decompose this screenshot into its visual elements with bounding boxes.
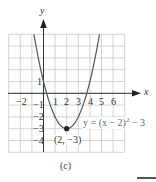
y-tick-neg2: −2 bbox=[33, 112, 44, 122]
parabola-figure bbox=[0, 0, 156, 182]
y-tick-neg4: −4 bbox=[33, 136, 44, 146]
equation-prefix: y = (x − 2) bbox=[83, 117, 126, 128]
x-tick-6: 6 bbox=[111, 97, 116, 107]
x-tick-5: 5 bbox=[99, 97, 104, 107]
y-axis-arrow-icon bbox=[40, 19, 47, 28]
equation-label: y = (x − 2)2 − 3 bbox=[82, 117, 146, 129]
x-tick-neg2: −2 bbox=[16, 97, 27, 107]
bottom-right-rule bbox=[137, 177, 156, 179]
y-axis-label: y bbox=[40, 6, 44, 16]
vertex-label: (2, −3) bbox=[54, 135, 81, 145]
y-tick-neg1: −1 bbox=[33, 100, 44, 110]
y-tick-1: 1 bbox=[37, 77, 42, 87]
x-axis-label: x bbox=[144, 87, 148, 97]
x-tick-1: 1 bbox=[53, 97, 58, 107]
x-tick-2: 2 bbox=[64, 97, 69, 107]
x-axis bbox=[8, 90, 141, 97]
equation-suffix: − 3 bbox=[129, 117, 145, 128]
figure-caption: (c) bbox=[60, 160, 71, 171]
x-tick-4: 4 bbox=[88, 97, 93, 107]
y-tick-neg3: −3 bbox=[33, 124, 44, 134]
x-tick-3: 3 bbox=[76, 97, 81, 107]
vertex-point bbox=[64, 126, 69, 131]
x-axis-arrow-icon bbox=[132, 90, 141, 97]
